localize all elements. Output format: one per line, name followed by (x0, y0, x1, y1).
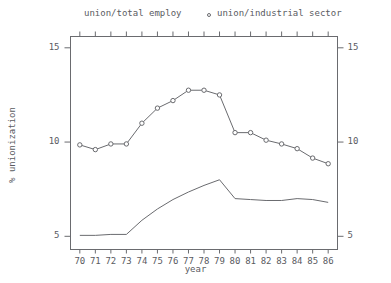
x-tick-label: 84 (289, 256, 305, 266)
x-tick-label: 79 (212, 256, 228, 266)
legend-entry-union-total-employ: union/total employ (84, 8, 182, 18)
y-tick-label-left: 5 (40, 230, 60, 240)
x-tick-label: 77 (180, 256, 196, 266)
x-tick-label: 74 (134, 256, 150, 266)
x-tick-label: 81 (243, 256, 259, 266)
series-marker-1 (326, 162, 330, 166)
x-tick-label: 75 (149, 256, 165, 266)
x-tick-label: 70 (72, 256, 88, 266)
legend-entry-union-industrial-sector: union/industrial sector (217, 8, 342, 18)
y-tick-label-left: 15 (40, 42, 60, 52)
series-line-0 (80, 180, 328, 236)
x-tick-label: 71 (87, 256, 103, 266)
series-marker-1 (93, 147, 97, 151)
series-marker-1 (233, 130, 237, 134)
chart-container: union/total employ union/industrial sect… (0, 0, 391, 283)
series-marker-1 (155, 106, 159, 110)
series-marker-1 (171, 98, 175, 102)
x-tick-label: 76 (165, 256, 181, 266)
y-axis-title: % unionization (7, 100, 17, 190)
axis-ticks (65, 32, 344, 254)
series-marker-1 (140, 121, 144, 125)
circle-marker-icon (207, 13, 211, 17)
series-marker-1 (279, 142, 283, 146)
x-tick-label: 73 (118, 256, 134, 266)
series-marker-1 (202, 88, 206, 92)
y-tick-label-right: 15 (348, 42, 368, 52)
y-tick-label-right: 10 (348, 136, 368, 146)
x-tick-label: 78 (196, 256, 212, 266)
data-series-group (78, 88, 331, 235)
series-line-1 (80, 90, 328, 164)
series-marker-1 (186, 88, 190, 92)
x-tick-label: 80 (227, 256, 243, 266)
x-tick-label: 82 (258, 256, 274, 266)
series-marker-1 (124, 142, 128, 146)
series-marker-1 (248, 130, 252, 134)
y-tick-label-left: 10 (40, 136, 60, 146)
x-tick-label: 72 (103, 256, 119, 266)
series-marker-1 (264, 138, 268, 142)
x-tick-label: 86 (320, 256, 336, 266)
series-marker-1 (310, 156, 314, 160)
x-axis-title: year (0, 264, 391, 274)
series-marker-1 (109, 142, 113, 146)
series-marker-1 (78, 143, 82, 147)
x-tick-label: 83 (274, 256, 290, 266)
x-tick-label: 85 (305, 256, 321, 266)
y-tick-label-right: 5 (348, 230, 368, 240)
series-marker-1 (295, 146, 299, 150)
series-marker-1 (217, 93, 221, 97)
